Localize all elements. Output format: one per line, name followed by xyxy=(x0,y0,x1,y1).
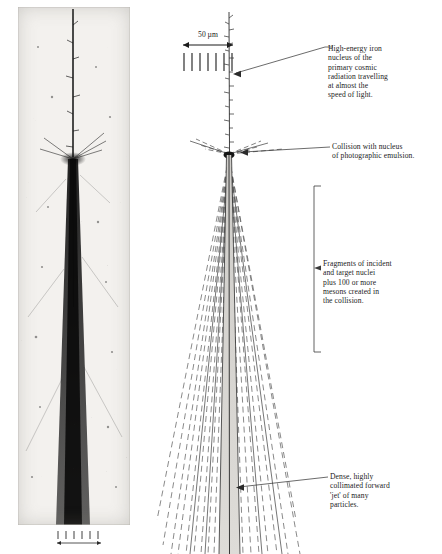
jet-core-line xyxy=(229,155,230,554)
annotation-line: 'jet' of many xyxy=(330,491,390,500)
annotation-line: radiation travelling xyxy=(328,72,388,81)
annotation-line: primary cosmic xyxy=(328,63,388,72)
annotation-line: Dense, highly xyxy=(330,472,390,481)
annotation-iron-nucleus: High-energy iron nucleus of the primary … xyxy=(328,44,388,100)
figure-root: 50 µm xyxy=(0,0,442,554)
annotation-collision: Collision with nucleus of photographic e… xyxy=(332,142,414,161)
annotation-line: Collision with nucleus xyxy=(332,142,414,151)
annotation-line: nucleus of the xyxy=(328,53,388,62)
annotation-line: speed of light. xyxy=(328,90,388,99)
annotation-line: the collision. xyxy=(323,296,392,305)
annotation-line: collimated forward xyxy=(330,481,390,490)
annotation-line: and target nuclei xyxy=(323,268,392,277)
annotation-jet: Dense, highly collimated forward 'jet' o… xyxy=(330,472,390,509)
annotation-fragments: Fragments of incident and target nuclei … xyxy=(323,259,392,305)
annotation-line: Fragments of incident xyxy=(323,259,392,268)
annotation-line: mesons created in xyxy=(323,287,392,296)
annotation-line: at almost the xyxy=(328,81,388,90)
annotation-line: particles. xyxy=(330,500,390,509)
fragments-bracket xyxy=(314,186,321,352)
annotation-line: of photographic emulsion. xyxy=(332,151,414,160)
annotation-line: High-energy iron xyxy=(328,44,388,53)
primary-track xyxy=(224,12,234,153)
fragment-tracks-backward xyxy=(196,139,283,154)
annotation-line: plus 100 or more xyxy=(323,278,392,287)
